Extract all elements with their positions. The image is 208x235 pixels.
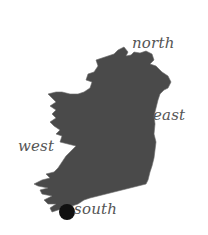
compass-label-east: east: [153, 108, 185, 123]
ireland-silhouette: [34, 47, 171, 212]
location-dot-icon: [59, 204, 75, 220]
map-canvas: north east west south: [0, 0, 208, 235]
compass-label-north: north: [132, 36, 175, 51]
compass-label-west: west: [18, 139, 54, 154]
compass-label-south: south: [74, 202, 117, 217]
